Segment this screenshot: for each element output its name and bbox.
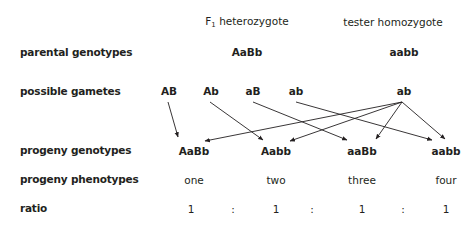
progeny-phenotype-2: two <box>266 174 285 186</box>
gamete-f1-AB: AB <box>161 85 177 97</box>
progeny-genotype-2: Aabb <box>261 145 291 157</box>
ratio-value-3: 1 <box>359 203 366 215</box>
row-label-parental-genotypes: parental genotypes <box>20 46 132 58</box>
ratio-value-1: 1 <box>188 203 195 215</box>
cross-arrows-diagram <box>0 0 470 226</box>
row-label-possible-gametes: possible gametes <box>20 85 121 97</box>
gamete-tester-ab: ab <box>397 85 412 97</box>
progeny-phenotype-4: four <box>435 174 456 186</box>
ratio-separator-2: : <box>310 203 314 215</box>
row-label-progeny-phenotypes: progeny phenotypes <box>20 173 138 185</box>
tester-homozygote-header: tester homozygote <box>343 16 442 28</box>
ratio-separator-3: : <box>401 203 405 215</box>
arrow-tester-to-Aabb <box>290 102 402 141</box>
progeny-genotype-4: aabb <box>431 145 460 157</box>
f1-header-suffix: heterozygote <box>216 15 289 27</box>
arrow-tester-to-aaBb <box>376 102 402 139</box>
gamete-f1-Ab: Ab <box>203 85 219 97</box>
arrow-ab-to-aabb <box>296 102 432 140</box>
progeny-genotype-1: AaBb <box>179 145 210 157</box>
arrow-tester-to-aabb <box>402 102 445 139</box>
f1-heterozygote-header: F1 heterozygote <box>205 15 288 29</box>
arrow-tester-to-AaBb <box>205 102 402 141</box>
ratio-value-4: 1 <box>443 203 450 215</box>
parental-genotype-f1: AaBb <box>232 46 263 58</box>
parental-genotype-tester: aabb <box>389 46 418 58</box>
arrow-AB-to-AaBb <box>168 102 178 137</box>
row-label-ratio: ratio <box>20 202 47 214</box>
progeny-phenotype-3: three <box>348 174 376 186</box>
gamete-f1-ab: ab <box>289 85 304 97</box>
progeny-genotype-3: aaBb <box>347 145 377 157</box>
arrow-Ab-to-Aabb <box>210 102 263 140</box>
ratio-separator-1: : <box>231 203 235 215</box>
gamete-f1-aB: aB <box>245 85 260 97</box>
row-label-progeny-genotypes: progeny genotypes <box>20 144 131 156</box>
progeny-phenotype-1: one <box>184 174 204 186</box>
ratio-value-2: 1 <box>273 203 280 215</box>
arrow-aB-to-aaBb <box>253 102 347 140</box>
